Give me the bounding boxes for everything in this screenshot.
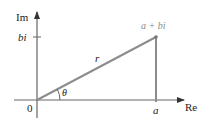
complex-plane-diagram: Im bi 0 a Re a + bi r θ bbox=[0, 0, 213, 126]
real-tick-label: a bbox=[153, 104, 159, 116]
radius-segment bbox=[37, 37, 156, 100]
imaginary-tick-label: bi bbox=[18, 31, 27, 43]
real-axis-label: Re bbox=[185, 101, 197, 113]
angle-label: θ bbox=[62, 87, 67, 98]
origin-label: 0 bbox=[27, 102, 33, 114]
point-label: a + bi bbox=[141, 20, 166, 31]
point-marker bbox=[154, 35, 158, 39]
radius-label: r bbox=[95, 52, 100, 64]
angle-arc bbox=[57, 89, 60, 100]
imaginary-axis-label: Im bbox=[16, 11, 29, 23]
